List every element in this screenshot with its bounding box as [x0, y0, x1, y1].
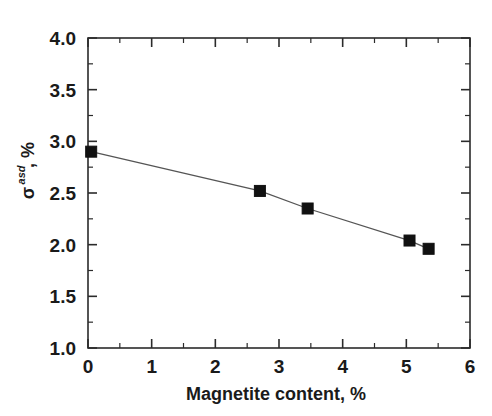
x-tick-label: 1 — [146, 356, 157, 377]
y-tick-label: 2.0 — [50, 235, 76, 256]
x-tick-label: 4 — [337, 356, 348, 377]
y-tick-label: 1.0 — [50, 338, 76, 359]
y-tick-label: 4.0 — [50, 28, 76, 49]
y-tick-label: 3.0 — [50, 131, 76, 152]
y-tick-label: 1.5 — [50, 286, 77, 307]
x-axis-title: Magnetite content, % — [186, 384, 366, 404]
data-point-marker — [423, 243, 434, 254]
data-point-marker — [404, 235, 415, 246]
chart-figure: 0123456 1.01.52.02.53.03.54.0 Magnetite … — [0, 0, 492, 416]
x-tick-label: 3 — [274, 356, 285, 377]
y-tick-label: 3.5 — [50, 80, 77, 101]
data-point-marker — [254, 185, 265, 196]
chart-canvas: 0123456 1.01.52.02.53.03.54.0 Magnetite … — [0, 0, 492, 416]
x-tick-label: 2 — [210, 356, 221, 377]
x-tick-label: 5 — [401, 356, 412, 377]
x-tick-label: 0 — [83, 356, 94, 377]
y-axis-title-symbol: σ — [18, 187, 38, 199]
y-axis-title-suffix: , % — [18, 142, 38, 168]
y-tick-label: 2.5 — [50, 183, 77, 204]
data-point-marker — [302, 203, 313, 214]
data-point-marker — [86, 146, 97, 157]
x-tick-label: 6 — [465, 356, 476, 377]
